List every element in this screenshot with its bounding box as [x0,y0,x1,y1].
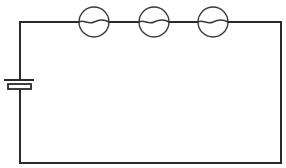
series-circuit-diagram [0,0,286,168]
battery-short-plate [8,84,31,89]
